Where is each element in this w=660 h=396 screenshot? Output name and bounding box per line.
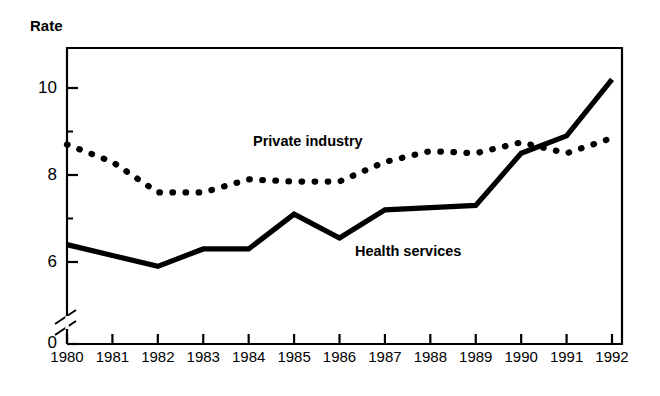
x-tick-label-1985: 1985	[271, 349, 317, 365]
y-tick-label-6: 6	[21, 253, 57, 270]
x-tick-label-1992: 1992	[589, 349, 635, 365]
x-tick-label-1983: 1983	[180, 349, 226, 365]
x-tick-label-1990: 1990	[498, 349, 544, 365]
y-tick-label-8: 8	[21, 166, 57, 183]
plot-frame	[67, 48, 622, 344]
x-tick-label-1988: 1988	[407, 349, 453, 365]
y-axis-ticks	[67, 88, 78, 344]
x-axis-ticks	[67, 334, 612, 344]
data-series-group	[67, 79, 612, 266]
x-tick-label-1986: 1986	[317, 349, 363, 365]
x-tick-label-1984: 1984	[226, 349, 272, 365]
x-tick-label-1987: 1987	[362, 349, 408, 365]
y-tick-label-10: 10	[21, 79, 57, 96]
series-label-health-services: Health services	[355, 243, 461, 259]
x-tick-label-1980: 1980	[44, 349, 90, 365]
x-tick-label-1989: 1989	[453, 349, 499, 365]
x-tick-label-1981: 1981	[89, 349, 135, 365]
series-label-private-industry: Private industry	[253, 133, 363, 149]
x-tick-label-1991: 1991	[544, 349, 590, 365]
y-axis-break-icon	[55, 310, 76, 335]
rate-line-chart: Rate 10860 19801981198219831984198519861…	[0, 0, 660, 396]
plot-area-svg	[0, 0, 660, 396]
x-tick-label-1982: 1982	[135, 349, 181, 365]
